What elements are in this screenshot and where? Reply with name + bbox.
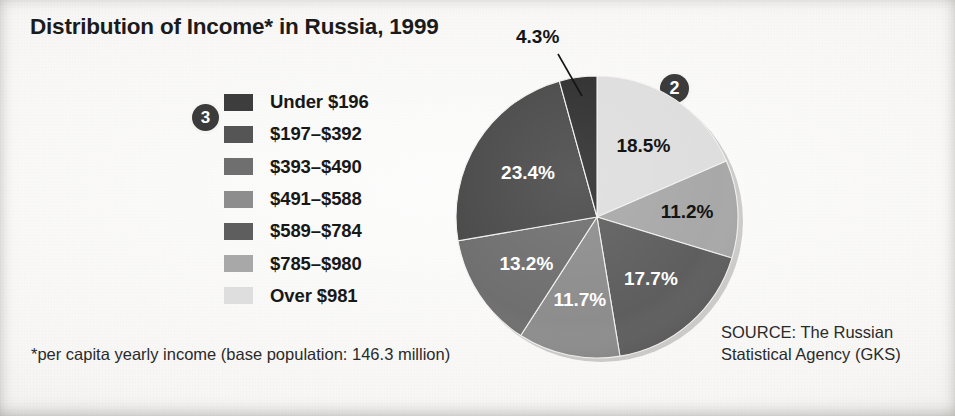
legend-swatch	[224, 223, 253, 240]
pie-svg: 18.5%11.2%17.7%11.7%13.2%23.4%	[449, 69, 745, 365]
footnote: *per capita yearly income (base populati…	[31, 345, 450, 364]
page-title: Distribution of Income* in Russia, 1999	[30, 14, 439, 40]
legend-item[interactable]: $197–$392	[224, 118, 454, 150]
legend-item-label: $589–$784	[270, 220, 362, 242]
pie-slice-label: 18.5%	[616, 135, 670, 156]
slice-callout-label: 4.3%	[516, 26, 559, 48]
legend-swatch	[224, 191, 253, 208]
legend-item-label: $197–$392	[270, 123, 362, 145]
pie-chart: 18.5%11.2%17.7%11.7%13.2%23.4%	[449, 69, 745, 365]
step-badge-3: 3	[192, 104, 219, 131]
legend-item-label: $785–$980	[270, 253, 362, 275]
legend-item-label: $491–$588	[270, 188, 362, 210]
legend-item-label: Under $196	[270, 91, 369, 113]
legend-item[interactable]: $589–$784	[224, 215, 454, 247]
legend-item-label: Over $981	[270, 285, 358, 307]
legend-swatch	[224, 126, 253, 143]
legend-item[interactable]: $785–$980	[224, 247, 454, 279]
legend-swatch	[224, 287, 253, 304]
pie-slice-label: 11.2%	[661, 201, 714, 222]
pie-slice-label: 23.4%	[501, 162, 555, 183]
pie-slice-label: 11.7%	[553, 289, 606, 310]
source-line-2: Statistical Agency (GKS)	[721, 344, 931, 366]
legend-item[interactable]: Under $196	[224, 86, 454, 118]
chart-figure: Distribution of Income* in Russia, 1999 …	[0, 0, 955, 416]
legend-item[interactable]: Over $981	[224, 280, 454, 312]
legend-swatch	[224, 158, 253, 175]
pie-slice-label: 13.2%	[499, 253, 553, 274]
source-line-1: SOURCE: The Russian	[721, 322, 931, 344]
pie-slice-label: 17.7%	[624, 268, 678, 289]
legend-item-label: $393–$490	[270, 156, 362, 178]
legend-item[interactable]: $393–$490	[224, 151, 454, 183]
legend-swatch	[224, 255, 253, 272]
source-note: SOURCE: The Russian Statistical Agency (…	[721, 322, 931, 366]
legend-item[interactable]: $491–$588	[224, 183, 454, 215]
chart-legend: Under $196$197–$392$393–$490$491–$588$58…	[224, 86, 454, 312]
legend-swatch	[224, 94, 253, 111]
